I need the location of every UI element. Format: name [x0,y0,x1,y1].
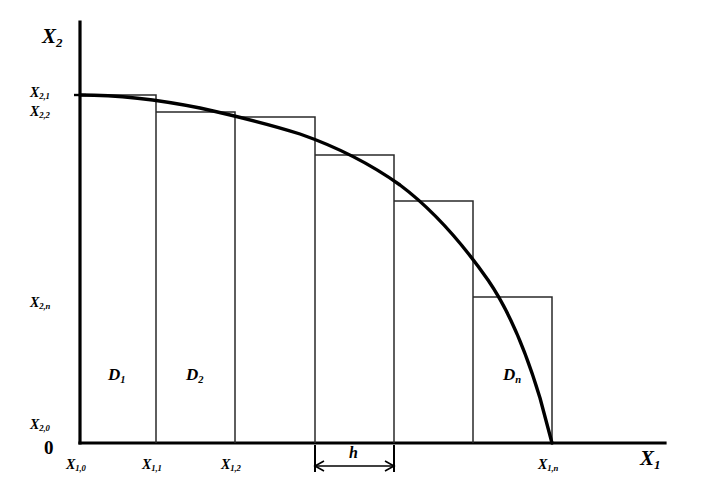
y-tick-label-x22: X2,2 [30,105,50,120]
y-tick-label-x21: X2,1 [30,86,50,101]
x-tick-label-x11: X1,1 [142,458,162,473]
bar-d1 [80,95,156,443]
bar-d3 [235,117,315,443]
x-tick-label-x12: X1,2 [221,458,241,473]
region-label-dn: Dn [503,366,521,385]
x-axis-label: X1 [640,448,660,471]
interval-h-label: h [349,445,358,461]
y-tick-label-x2n: X2,n [30,296,50,311]
diagram-canvas [0,0,705,500]
riemann-sum-diagram: X2 X1 0 X2,1 X2,2 X2,n X2,0 X1,0 X1,1 X1… [0,0,705,500]
y-axis-label: X2 [42,26,62,49]
bar-d5 [394,201,473,443]
origin-label: 0 [44,438,54,457]
region-label-d2: D2 [186,366,203,385]
x-tick-label-x10: X1,0 [66,458,86,473]
region-label-d1: D1 [108,366,125,385]
x-tick-label-x1n: X1,n [538,458,558,473]
bar-d4 [315,155,394,443]
y-tick-label-x20: X2,0 [30,418,50,433]
bar-d2 [156,112,235,443]
function-curve [80,95,552,443]
